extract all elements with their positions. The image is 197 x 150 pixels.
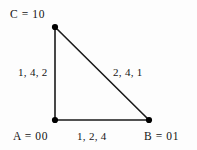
vertex-dot-B [146,117,152,123]
vertex-dot-C [52,24,58,30]
edge-label-AC: 1, 4, 2 [18,67,48,78]
vertex-dot-A [52,117,58,123]
vertex-label-B: B = 01 [144,131,179,143]
edge-label-CB: 2, 4, 1 [113,67,143,78]
triangle-diagram: C = 10 A = 00 B = 01 1, 4, 2 2, 4, 1 1, … [0,0,197,150]
edge-label-AB: 1, 2, 4 [77,131,107,142]
vertex-label-A: A = 00 [13,131,48,143]
vertex-label-C: C = 10 [10,9,45,21]
